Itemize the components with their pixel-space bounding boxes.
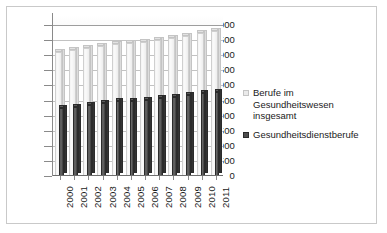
bar-side-face	[149, 97, 152, 173]
bar-gesundheitsdienstberufe[interactable]	[116, 101, 121, 176]
bar-group	[53, 25, 67, 176]
x-axis-tick	[117, 176, 118, 180]
x-axis-tick	[103, 176, 104, 180]
bar-group	[138, 25, 152, 176]
x-axis-tick-label: 2007	[163, 186, 174, 208]
bar-gesundheitsdienstberufe[interactable]	[130, 101, 135, 177]
y-axis-tick	[44, 101, 52, 102]
x-axis-tick-label: 2000	[64, 186, 75, 208]
bar-group	[124, 25, 138, 176]
bar-side-face	[191, 92, 194, 173]
x-axis-tick	[74, 176, 75, 180]
legend-swatch-icon	[243, 90, 249, 96]
bar-side-face	[78, 104, 81, 173]
bar-gesundheitsdienstberufe[interactable]	[59, 108, 64, 176]
bar-side-face	[163, 95, 166, 173]
x-axis-tick-label: 2006	[149, 186, 160, 208]
y-axis-tick	[44, 131, 52, 132]
bar-group	[209, 25, 223, 176]
bar-group	[96, 25, 110, 176]
bar-group	[166, 25, 180, 176]
bar-top-face	[97, 43, 104, 46]
y-axis-tick	[44, 161, 52, 162]
bar-top-face	[168, 35, 175, 38]
bar-side-face	[177, 94, 180, 173]
bar-side-face	[219, 89, 222, 173]
bar-gesundheitsdienstberufe[interactable]	[144, 100, 149, 176]
y-axis-tick	[44, 70, 52, 71]
y-axis-tick	[44, 176, 52, 177]
x-axis-tick-label: 2010	[206, 186, 217, 208]
x-axis-tick	[88, 176, 89, 180]
x-axis-tick	[159, 176, 160, 180]
x-axis-line	[53, 175, 223, 176]
bar-group	[110, 25, 124, 176]
bar-group	[181, 25, 195, 176]
bar-group	[195, 25, 209, 176]
bar-gesundheitsdienstberufe[interactable]	[215, 92, 220, 176]
bar-gesundheitsdienstberufe[interactable]	[73, 107, 78, 176]
bar-top-face	[197, 30, 204, 33]
x-axis-tick	[145, 176, 146, 180]
bar-side-face	[92, 102, 95, 173]
plot-area	[53, 25, 223, 176]
legend-swatch-icon	[243, 132, 249, 138]
y-axis-line	[52, 13, 53, 176]
y-axis-tick	[44, 55, 52, 56]
x-axis-tick	[216, 176, 217, 180]
bar-side-face	[120, 98, 123, 173]
bar-gesundheitsdienstberufe[interactable]	[101, 103, 106, 176]
bar-group	[67, 25, 81, 176]
bar-top-face	[83, 45, 90, 48]
x-axis-tick-label: 2004	[121, 186, 132, 208]
bar-top-face	[211, 28, 218, 31]
y-axis-tick	[44, 25, 52, 26]
x-axis-tick	[188, 176, 189, 180]
y-axis-tick	[44, 85, 52, 86]
x-axis-tick	[131, 176, 132, 180]
legend-item[interactable]: Berufe im Gesundheitswesen insgesamt	[243, 87, 375, 122]
legend-item-label: Gesundheitsdienstberufe	[253, 129, 359, 141]
x-axis-tick-label: 2002	[92, 186, 103, 208]
x-axis-tick-label: 2001	[78, 186, 89, 208]
x-axis-tick-label: 2003	[107, 186, 118, 208]
plot-area-wrapper: 5.0004.5004.0003.5003.0002.5002.0001.500…	[7, 7, 235, 223]
x-axis-tick	[60, 176, 61, 180]
bar-top-face	[154, 37, 161, 40]
bar-top-face	[182, 33, 189, 36]
bar-top-face	[140, 39, 147, 42]
legend-item[interactable]: Gesundheitsdienstberufe	[243, 129, 375, 141]
y-axis-tick	[44, 146, 52, 147]
bar-top-face	[112, 41, 119, 44]
x-axis-tick-label: 2011	[220, 187, 231, 208]
y-axis-tick	[44, 40, 52, 41]
bar-side-face	[64, 105, 67, 173]
bar-side-face	[205, 90, 208, 173]
x-axis-tick-label: 2008	[177, 186, 188, 208]
bar-gesundheitsdienstberufe[interactable]	[201, 93, 206, 176]
legend-item-label: Berufe im Gesundheitswesen insgesamt	[253, 87, 375, 122]
bar-gesundheitsdienstberufe[interactable]	[158, 98, 163, 176]
bar-side-face	[106, 100, 109, 173]
bar-top-face	[126, 40, 133, 43]
bar-top-face	[55, 49, 62, 52]
y-axis-tick	[44, 116, 52, 117]
chart-frame: 5.0004.5004.0003.5003.0002.5002.0001.500…	[6, 6, 377, 224]
bar-side-face	[134, 98, 137, 174]
x-axis-tick	[173, 176, 174, 180]
bar-gesundheitsdienstberufe[interactable]	[172, 97, 177, 176]
bar-top-face	[69, 47, 76, 50]
bar-gesundheitsdienstberufe[interactable]	[87, 105, 92, 176]
x-axis-tick-label: 2005	[135, 186, 146, 208]
bar-group	[81, 25, 95, 176]
bar-group	[152, 25, 166, 176]
bar-gesundheitsdienstberufe[interactable]	[186, 95, 191, 176]
x-axis-tick	[202, 176, 203, 180]
chart-legend: Berufe im Gesundheitswesen insgesamtGesu…	[243, 87, 375, 147]
x-axis-tick-label: 2009	[192, 186, 203, 208]
